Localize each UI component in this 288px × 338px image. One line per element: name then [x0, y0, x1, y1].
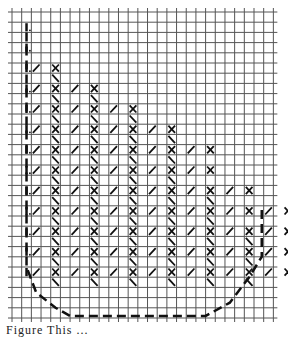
forward-slash-stitch	[33, 85, 40, 92]
back-slash-stitch	[168, 218, 175, 225]
forward-slash-stitch	[72, 85, 79, 92]
forward-slash-stitch	[110, 187, 117, 194]
forward-slash-stitch	[110, 228, 117, 235]
edge-dot	[29, 131, 31, 133]
back-slash-stitch	[168, 258, 175, 265]
forward-slash-stitch	[33, 207, 40, 214]
forward-slash-stitch	[33, 105, 40, 112]
forward-slash-stitch	[33, 146, 40, 153]
figure-caption: Figure This ...	[6, 323, 88, 338]
forward-slash-stitch	[265, 207, 272, 214]
forward-slash-stitch	[188, 248, 195, 255]
back-slash-stitch	[52, 95, 59, 102]
forward-slash-stitch	[72, 105, 79, 112]
forward-slash-stitch	[110, 248, 117, 255]
forward-slash-stitch	[188, 167, 195, 174]
edge-dot	[29, 70, 31, 72]
forward-slash-stitch	[226, 248, 233, 255]
forward-slash-stitch	[188, 146, 195, 153]
forward-slash-stitch	[265, 248, 272, 255]
forward-slash-stitch	[110, 167, 117, 174]
back-slash-stitch	[52, 258, 59, 265]
back-slash-stitch	[130, 156, 137, 163]
forward-slash-stitch	[149, 248, 156, 255]
back-slash-stitch	[207, 258, 214, 265]
back-slash-stitch	[130, 116, 137, 123]
back-slash-stitch	[91, 156, 98, 163]
forward-slash-stitch	[72, 228, 79, 235]
back-slash-stitch	[130, 258, 137, 265]
back-slash-stitch	[168, 156, 175, 163]
forward-slash-stitch	[33, 228, 40, 235]
edge-dot	[29, 193, 31, 195]
back-slash-stitch	[130, 177, 137, 184]
forward-slash-stitch	[72, 146, 79, 153]
edge-dot	[29, 152, 31, 154]
forward-slash-stitch	[149, 167, 156, 174]
back-slash-stitch	[52, 136, 59, 143]
back-slash-stitch	[52, 279, 59, 286]
forward-slash-stitch	[72, 269, 79, 276]
graph-paper-grid	[8, 8, 277, 322]
forward-slash-stitch	[72, 207, 79, 214]
forward-slash-stitch	[149, 269, 156, 276]
forward-slash-stitch	[110, 105, 117, 112]
forward-slash-stitch	[110, 126, 117, 133]
back-slash-stitch	[168, 177, 175, 184]
edge-dot	[29, 213, 31, 215]
back-slash-stitch	[207, 238, 214, 245]
edge-dot	[29, 91, 31, 93]
forward-slash-stitch	[149, 187, 156, 194]
back-slash-stitch	[130, 218, 137, 225]
back-slash-stitch	[52, 218, 59, 225]
back-slash-stitch	[52, 75, 59, 82]
forward-slash-stitch	[188, 187, 195, 194]
back-slash-stitch	[207, 218, 214, 225]
back-slash-stitch	[207, 279, 214, 286]
back-slash-stitch	[52, 197, 59, 204]
forward-slash-stitch	[188, 269, 195, 276]
back-slash-stitch	[91, 258, 98, 265]
forward-slash-stitch	[110, 207, 117, 214]
forward-slash-stitch	[149, 228, 156, 235]
back-slash-stitch	[91, 238, 98, 245]
edge-dot	[29, 172, 31, 174]
back-slash-stitch	[246, 238, 253, 245]
edge-dot	[29, 254, 31, 256]
forward-slash-stitch	[149, 126, 156, 133]
back-slash-stitch	[168, 197, 175, 204]
forward-slash-stitch	[226, 187, 233, 194]
forward-slash-stitch	[33, 126, 40, 133]
back-slash-stitch	[52, 238, 59, 245]
back-slash-stitch	[246, 258, 253, 265]
back-slash-stitch	[130, 238, 137, 245]
back-slash-stitch	[130, 136, 137, 143]
back-slash-stitch	[168, 136, 175, 143]
back-slash-stitch	[52, 156, 59, 163]
forward-slash-stitch	[226, 228, 233, 235]
forward-slash-stitch	[188, 207, 195, 214]
back-slash-stitch	[91, 197, 98, 204]
back-slash-stitch	[168, 279, 175, 286]
back-slash-stitch	[130, 279, 137, 286]
forward-slash-stitch	[226, 269, 233, 276]
edge-dot	[29, 50, 31, 52]
forward-slash-stitch	[33, 269, 40, 276]
back-slash-stitch	[207, 197, 214, 204]
forward-slash-stitch	[72, 187, 79, 194]
back-slash-stitch	[91, 136, 98, 143]
edge-dot	[29, 29, 31, 31]
forward-slash-stitch	[33, 65, 40, 72]
back-slash-stitch	[168, 238, 175, 245]
forward-slash-stitch	[33, 167, 40, 174]
forward-slash-stitch	[188, 228, 195, 235]
back-slash-stitch	[91, 95, 98, 102]
forward-slash-stitch	[72, 248, 79, 255]
back-slash-stitch	[52, 116, 59, 123]
back-slash-stitch	[91, 218, 98, 225]
forward-slash-stitch	[110, 269, 117, 276]
forward-slash-stitch	[226, 207, 233, 214]
back-slash-stitch	[91, 279, 98, 286]
back-slash-stitch	[130, 197, 137, 204]
